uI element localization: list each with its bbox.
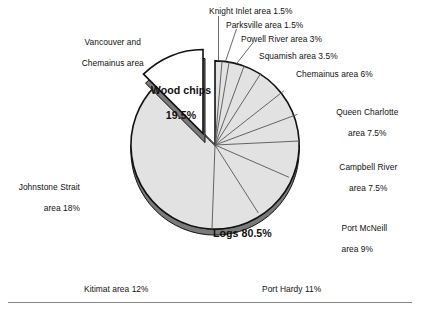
label-port-hardy: Port Hardy 11% xyxy=(262,284,321,294)
label-campbell-river-line1: Campbell River xyxy=(339,162,397,172)
footer-rule xyxy=(8,302,412,303)
label-port-mcneill: Port McNeill area 9% xyxy=(332,213,387,264)
leader-parksville xyxy=(226,29,237,61)
label-wood-chips-line2: 19.5% xyxy=(166,109,196,121)
label-campbell-river: Campbell River area 7.5% xyxy=(316,152,411,203)
label-johnstone-strait-line2: area 18% xyxy=(44,203,80,213)
label-johnstone-strait-line1: Johnstone Strait xyxy=(19,182,80,192)
label-vancouver-chemainus-line2: Chemainus area xyxy=(82,58,144,68)
label-parksville: Parksville area 1.5% xyxy=(226,20,303,30)
label-wood-chips: Wood chips 19.5% xyxy=(120,71,230,134)
label-knight-inlet: Knight Inlet area 1.5% xyxy=(209,6,293,16)
label-vancouver-chemainus-line1: Vancouver and xyxy=(85,37,141,47)
label-johnstone-strait: Johnstone Strait area 18% xyxy=(8,172,80,223)
label-logs: Logs 80.5% xyxy=(213,227,272,240)
label-powell-river: Powell River area 3% xyxy=(241,34,322,44)
label-wood-chips-line1: Wood chips xyxy=(151,84,211,96)
label-queen-charlotte: Queen Charlotte area 7.5% xyxy=(315,97,410,148)
label-port-mcneill-line2: area 9% xyxy=(342,244,374,254)
label-queen-charlotte-line1: Queen Charlotte xyxy=(336,107,398,117)
label-kitimat: Kitimat area 12% xyxy=(84,284,149,294)
pie-chart-figure: Knight Inlet area 1.5% Parksville area 1… xyxy=(0,0,421,311)
label-campbell-river-line2: area 7.5% xyxy=(349,183,388,193)
label-queen-charlotte-line2: area 7.5% xyxy=(348,128,387,138)
label-squamish: Squamish area 3.5% xyxy=(259,51,338,61)
label-port-mcneill-line1: Port McNeill xyxy=(342,223,388,233)
leader-powell-river xyxy=(237,42,254,64)
label-chemainus: Chemainus area 6% xyxy=(296,69,373,79)
